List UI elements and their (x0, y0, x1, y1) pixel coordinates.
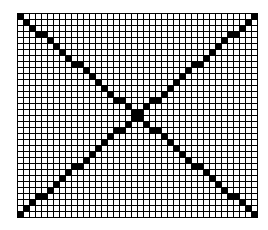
empty-cell (138, 38, 143, 43)
empty-cell (84, 194, 89, 199)
empty-cell (72, 56, 77, 61)
empty-cell (144, 134, 149, 139)
empty-cell (168, 182, 173, 187)
empty-cell (102, 50, 107, 55)
empty-cell (96, 164, 101, 169)
filled-cell (252, 212, 257, 217)
empty-cell (192, 110, 197, 115)
empty-cell (84, 14, 89, 19)
empty-cell (72, 128, 77, 133)
empty-cell (228, 152, 233, 157)
empty-cell (246, 80, 251, 85)
filled-cell (174, 146, 179, 151)
empty-cell (54, 50, 59, 55)
empty-cell (138, 62, 143, 67)
empty-cell (18, 110, 23, 115)
empty-cell (228, 26, 233, 31)
empty-cell (96, 62, 101, 67)
filled-cell (102, 140, 107, 145)
filled-cell (36, 32, 41, 37)
empty-cell (102, 26, 107, 31)
empty-cell (24, 80, 29, 85)
empty-cell (60, 14, 65, 19)
empty-cell (138, 80, 143, 85)
empty-cell (126, 170, 131, 175)
empty-cell (54, 32, 59, 37)
empty-cell (42, 200, 47, 205)
empty-cell (120, 62, 125, 67)
empty-cell (150, 86, 155, 91)
empty-cell (114, 200, 119, 205)
empty-cell (120, 212, 125, 217)
filled-cell (66, 56, 71, 61)
filled-cell (192, 62, 197, 67)
empty-cell (90, 98, 95, 103)
empty-cell (222, 176, 227, 181)
empty-cell (168, 164, 173, 169)
empty-cell (228, 92, 233, 97)
empty-cell (126, 38, 131, 43)
empty-cell (216, 38, 221, 43)
empty-cell (168, 56, 173, 61)
empty-cell (18, 50, 23, 55)
empty-cell (222, 164, 227, 169)
empty-cell (210, 44, 215, 49)
empty-cell (222, 26, 227, 31)
empty-cell (60, 26, 65, 31)
empty-cell (132, 170, 137, 175)
empty-cell (240, 182, 245, 187)
empty-cell (96, 194, 101, 199)
empty-cell (78, 20, 83, 25)
empty-cell (156, 200, 161, 205)
empty-cell (54, 170, 59, 175)
empty-cell (144, 62, 149, 67)
empty-cell (48, 152, 53, 157)
empty-cell (120, 56, 125, 61)
empty-cell (210, 116, 215, 121)
empty-cell (192, 86, 197, 91)
filled-cell (132, 110, 137, 115)
empty-cell (174, 188, 179, 193)
empty-cell (114, 212, 119, 217)
empty-cell (90, 128, 95, 133)
empty-cell (204, 182, 209, 187)
empty-cell (72, 20, 77, 25)
empty-cell (210, 20, 215, 25)
empty-cell (204, 26, 209, 31)
empty-cell (96, 110, 101, 115)
empty-cell (54, 92, 59, 97)
empty-cell (222, 50, 227, 55)
empty-cell (72, 146, 77, 151)
empty-cell (96, 158, 101, 163)
empty-cell (84, 200, 89, 205)
empty-cell (168, 74, 173, 79)
empty-cell (126, 182, 131, 187)
empty-cell (60, 44, 65, 49)
empty-cell (240, 134, 245, 139)
empty-cell (114, 50, 119, 55)
empty-cell (42, 20, 47, 25)
empty-cell (234, 206, 239, 211)
empty-cell (204, 80, 209, 85)
empty-cell (240, 80, 245, 85)
empty-cell (216, 146, 221, 151)
empty-cell (234, 188, 239, 193)
empty-cell (150, 44, 155, 49)
empty-cell (30, 62, 35, 67)
empty-cell (24, 188, 29, 193)
filled-cell (78, 62, 83, 67)
empty-cell (102, 176, 107, 181)
empty-cell (156, 194, 161, 199)
empty-cell (108, 86, 113, 91)
filled-cell (126, 122, 131, 127)
empty-cell (36, 206, 41, 211)
empty-cell (174, 194, 179, 199)
empty-cell (144, 98, 149, 103)
empty-cell (120, 158, 125, 163)
empty-cell (246, 14, 251, 19)
empty-cell (126, 14, 131, 19)
empty-cell (18, 128, 23, 133)
empty-cell (180, 20, 185, 25)
filled-cell (30, 26, 35, 31)
empty-cell (168, 134, 173, 139)
